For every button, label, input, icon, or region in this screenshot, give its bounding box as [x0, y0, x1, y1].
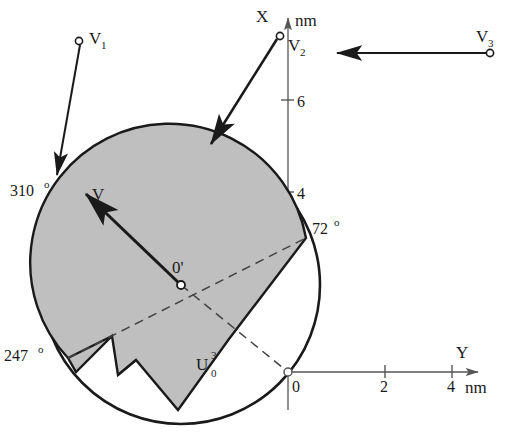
vector-V2-arrow — [211, 39, 277, 144]
vector-V1-origin-dot — [75, 37, 82, 44]
x-tick-label-6: 6 — [297, 93, 305, 110]
vector-V1-arrow — [57, 45, 80, 175]
angle-247-degree-icon: o — [38, 343, 44, 355]
x-axis-label: X — [256, 7, 268, 26]
angle-label-310: 310 o — [10, 178, 50, 199]
vector-V3-subscript: 3 — [488, 37, 494, 49]
angle-72-value: 72 — [312, 220, 328, 237]
y-tick-label-0: 0 — [292, 378, 300, 395]
center-point-marker — [177, 281, 185, 289]
region-label-superscript: 3 — [211, 349, 217, 361]
center-label: 0' — [172, 258, 184, 277]
x-axis-unit: nm — [295, 11, 317, 30]
y-axis-unit: nm — [465, 378, 487, 397]
angle-310-value: 310 — [10, 182, 34, 199]
vector-V2-origin-dot — [276, 32, 283, 39]
diagram-canvas: 2 4 6 0 2 4 X nm Y nm 310 o — [0, 0, 518, 436]
crystallite-diagram-svg: 2 4 6 0 2 4 X nm Y nm 310 o — [0, 0, 518, 436]
vector-V2-label: V 2 — [288, 36, 306, 58]
vector-V1-subscript: 1 — [101, 39, 107, 51]
angle-310-degree-icon: o — [44, 178, 50, 190]
angle-label-247: 247 o — [4, 343, 44, 364]
angle-72-degree-icon: o — [334, 216, 340, 228]
y-tick-label-2: 2 — [380, 378, 388, 395]
region-label-subscript: 0 — [211, 367, 217, 379]
vector-V1-label: V 1 — [89, 29, 107, 51]
angle-label-72: 72 o — [312, 216, 340, 237]
vector-V3-origin-dot — [486, 49, 493, 56]
y-tick-label-4: 4 — [447, 378, 455, 395]
angle-247-value: 247 — [4, 347, 28, 364]
origin-point-marker — [284, 368, 292, 376]
vector-V-label: V — [92, 185, 105, 204]
y-axis-label: Y — [456, 343, 468, 362]
vector-V3-label: V 3 — [476, 27, 494, 49]
region-label-base: U — [196, 355, 208, 374]
vector-V2-subscript: 2 — [300, 46, 306, 58]
x-tick-label-4: 4 — [297, 185, 305, 202]
